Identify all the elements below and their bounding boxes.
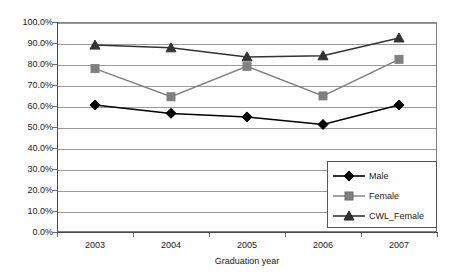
y-tick-label-30: 30.0% xyxy=(1,165,53,174)
y-tick-label-0: 0.0% xyxy=(1,228,53,237)
y-tick-label-40: 40.0% xyxy=(1,144,53,153)
y-tick-label-80: 80.0% xyxy=(1,60,53,69)
x-tick-mark-3 xyxy=(285,233,286,237)
gridline-80 xyxy=(58,65,436,66)
gridline-70 xyxy=(58,86,436,87)
x-tick-label-2007: 2007 xyxy=(369,240,429,250)
gridline-50 xyxy=(58,128,436,129)
y-tick-mark-70 xyxy=(52,85,57,86)
legend-item-female: Female xyxy=(328,186,436,206)
legend-swatch-female-square-icon xyxy=(332,189,366,203)
y-tick-mark-90 xyxy=(52,43,57,44)
legend-label-cwl-female: CWL_Female xyxy=(369,211,424,221)
x-tick-label-2003: 2003 xyxy=(65,240,125,250)
y-tick-mark-40 xyxy=(52,148,57,149)
x-axis-title: Graduation year xyxy=(57,256,437,266)
y-tick-label-60: 60.0% xyxy=(1,102,53,111)
x-axis-line xyxy=(57,232,438,233)
legend-swatch-cwl-female-triangle-icon xyxy=(332,209,366,223)
legend-label-female: Female xyxy=(369,191,399,201)
y-tick-mark-80 xyxy=(52,64,57,65)
y-tick-label-90: 90.0% xyxy=(1,39,53,48)
legend-label-male: Male xyxy=(369,171,389,181)
y-tick-label-70: 70.0% xyxy=(1,81,53,90)
x-tick-label-2005: 2005 xyxy=(217,240,277,250)
y-tick-mark-30 xyxy=(52,169,57,170)
gridline-40 xyxy=(58,149,436,150)
legend-item-male: Male xyxy=(328,166,436,186)
y-tick-label-100: 100.0% xyxy=(1,18,53,27)
x-tick-label-2004: 2004 xyxy=(141,240,201,250)
gridline-60 xyxy=(58,107,436,108)
legend-item-cwl-female: CWL_Female xyxy=(328,206,436,226)
y-tick-mark-20 xyxy=(52,190,57,191)
chart-legend: Male Female CWL_Female xyxy=(327,161,437,228)
legend-swatch-male-diamond-icon xyxy=(332,169,366,183)
chart-container: 100.0% 90.0% 80.0% 70.0% 60.0% 50.0% 40.… xyxy=(0,0,453,272)
x-tick-mark-2 xyxy=(209,233,210,237)
y-tick-label-10: 10.0% xyxy=(1,207,53,216)
x-tick-mark-end xyxy=(437,233,438,237)
y-tick-mark-60 xyxy=(52,106,57,107)
y-axis-line xyxy=(57,22,58,233)
gridline-100 xyxy=(58,23,436,24)
y-tick-mark-50 xyxy=(52,127,57,128)
x-tick-mark-start xyxy=(57,233,58,237)
x-tick-mark-4 xyxy=(361,233,362,237)
x-tick-mark-1 xyxy=(133,233,134,237)
x-tick-label-2006: 2006 xyxy=(293,240,353,250)
y-tick-mark-100 xyxy=(52,22,57,23)
gridline-90 xyxy=(58,44,436,45)
y-tick-label-50: 50.0% xyxy=(1,123,53,132)
y-tick-label-20: 20.0% xyxy=(1,186,53,195)
y-tick-mark-10 xyxy=(52,211,57,212)
